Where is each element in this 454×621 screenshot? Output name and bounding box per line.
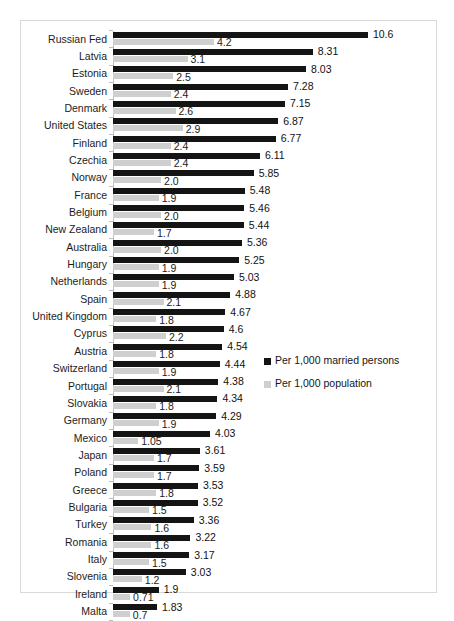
category-label: Denmark	[21, 103, 107, 114]
bar-value-married: 8.03	[311, 64, 331, 75]
bar-value-population: 2.9	[186, 124, 201, 135]
category-label: Finland	[21, 138, 107, 149]
category-label: United States	[21, 120, 107, 131]
bar-value-population: 1.9	[162, 263, 177, 274]
bar-value-married: 7.28	[293, 81, 313, 92]
bar-value-married: 6.77	[281, 133, 301, 144]
bar-value-married: 3.61	[205, 445, 225, 456]
category-label: Estonia	[21, 68, 107, 79]
bar-value-population: 1.8	[159, 401, 174, 412]
bar-married	[113, 84, 288, 90]
bar-value-married: 1.83	[162, 602, 182, 613]
category-label: Australia	[21, 242, 107, 253]
category-label: Latvia	[21, 51, 107, 62]
category-label: Portugal	[21, 381, 107, 392]
bar-value-married: 4.67	[230, 307, 250, 318]
category-label: Slovakia	[21, 398, 107, 409]
bar-value-married: 4.34	[222, 393, 242, 404]
bar-value-population: 2.0	[164, 245, 179, 256]
bar-value-married: 3.52	[203, 497, 223, 508]
bar-population	[113, 594, 130, 600]
bar-value-population: 2.6	[179, 106, 194, 117]
bar-population	[113, 195, 159, 201]
category-label: Belgium	[21, 207, 107, 218]
category-label: Malta	[21, 606, 107, 617]
bar-value-population: 1.6	[154, 523, 169, 534]
bar-population	[113, 108, 176, 114]
category-label: Ireland	[21, 589, 107, 600]
bar-population	[113, 91, 171, 97]
bar-population	[113, 299, 164, 305]
category-label: Bulgaria	[21, 502, 107, 513]
bar-married	[113, 222, 244, 228]
bar-population	[113, 559, 149, 565]
bar-population	[113, 125, 183, 131]
category-label: New Zealand	[21, 224, 107, 235]
category-label: Germany	[21, 415, 107, 426]
category-label: Cyprus	[21, 328, 107, 339]
bar-population	[113, 143, 171, 149]
bar-value-population: 1.5	[152, 505, 167, 516]
bar-value-population: 2.4	[174, 141, 189, 152]
bar-population	[113, 368, 159, 374]
bar-value-population: 0.71	[133, 592, 153, 603]
bar-population	[113, 611, 130, 617]
category-label: Romania	[21, 537, 107, 548]
bar-population	[113, 351, 156, 357]
bar-value-population: 3.1	[191, 54, 206, 65]
chart-frame: Russian Fed10.64.2Latvia8.313.1Estonia8.…	[20, 20, 437, 593]
bar-value-married: 5.44	[249, 220, 269, 231]
bar-value-married: 1.9	[164, 584, 179, 595]
bar-value-married: 3.17	[194, 550, 214, 561]
bar-value-married: 4.54	[227, 341, 247, 352]
bar-value-population: 2.4	[174, 158, 189, 169]
bar-value-married: 5.03	[239, 272, 259, 283]
bar-value-married: 6.87	[283, 116, 303, 127]
bar-married	[113, 517, 194, 523]
bar-value-married: 5.48	[250, 185, 270, 196]
category-label: Austria	[21, 346, 107, 357]
bar-population	[113, 160, 171, 166]
bar-value-married: 3.22	[195, 532, 215, 543]
bar-population	[113, 524, 151, 530]
category-label: Spain	[21, 294, 107, 305]
category-label: Hungary	[21, 259, 107, 270]
bar-value-population: 2.5	[176, 72, 191, 83]
bar-value-population: 1.7	[157, 453, 172, 464]
category-label: Poland	[21, 467, 107, 478]
bar-value-population: 1.7	[157, 471, 172, 482]
bar-population	[113, 247, 161, 253]
bar-value-population: 1.7	[157, 228, 172, 239]
category-label: Italy	[21, 554, 107, 565]
bar-value-married: 5.36	[247, 237, 267, 248]
bar-value-population: 2.4	[174, 89, 189, 100]
legend-swatch-black-icon	[264, 358, 271, 365]
bar-value-population: 0.7	[133, 610, 148, 621]
bar-value-married: 3.59	[204, 463, 224, 474]
category-label: Japan	[21, 450, 107, 461]
bar-value-population: 1.9	[162, 367, 177, 378]
bar-married	[113, 101, 285, 107]
bar-population	[113, 542, 151, 548]
category-label: Slovenia	[21, 571, 107, 582]
bar-population	[113, 73, 173, 79]
category-label: Czechia	[21, 155, 107, 166]
bar-married	[113, 483, 198, 489]
bar-value-married: 5.25	[244, 255, 264, 266]
bar-population	[113, 333, 166, 339]
bar-value-population: 1.2	[145, 575, 160, 586]
bar-value-married: 8.31	[318, 46, 338, 57]
bar-value-population: 1.8	[159, 349, 174, 360]
bar-population	[113, 316, 156, 322]
category-label: Russian Fed	[21, 34, 107, 45]
bar-population	[113, 490, 156, 496]
chart-plot-area: Russian Fed10.64.2Latvia8.313.1Estonia8.…	[21, 21, 438, 594]
bar-population	[113, 576, 142, 582]
bar-value-married: 5.46	[249, 203, 269, 214]
bar-value-married: 4.38	[223, 376, 243, 387]
bar-population	[113, 438, 138, 444]
bar-population	[113, 264, 159, 270]
category-label: Sweden	[21, 86, 107, 97]
bar-value-population: 1.8	[159, 315, 174, 326]
category-label: Turkey	[21, 519, 107, 530]
